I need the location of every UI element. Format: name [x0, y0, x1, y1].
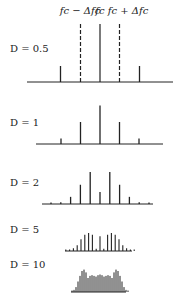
spectrum-panels: D = 0.5D = 1D = 2D = 5D = 10	[10, 43, 173, 292]
spectrum-panel: D = 0.5	[10, 43, 173, 82]
spectrum-panel: D = 10	[10, 259, 128, 292]
panel-label: D = 1	[10, 117, 39, 128]
label-carrier: fc	[94, 5, 105, 16]
spectrum-panel: D = 2	[10, 172, 153, 204]
fm-spectrum-diagram: fc − Δfc fc fc + Δfc D = 0.5D = 1D = 2D …	[0, 0, 183, 294]
panel-label: D = 2	[10, 177, 39, 188]
deviation-markers	[81, 24, 120, 84]
header-labels: fc − Δfc fc fc + Δfc	[59, 5, 149, 16]
panel-label: D = 5	[10, 224, 39, 235]
panel-label: D = 0.5	[10, 43, 49, 54]
panel-label: D = 10	[10, 259, 45, 270]
label-upper-deviation: fc + Δfc	[107, 5, 149, 16]
spectrum-panel: D = 1	[10, 106, 163, 145]
spectrum-panel: D = 5	[10, 224, 134, 251]
